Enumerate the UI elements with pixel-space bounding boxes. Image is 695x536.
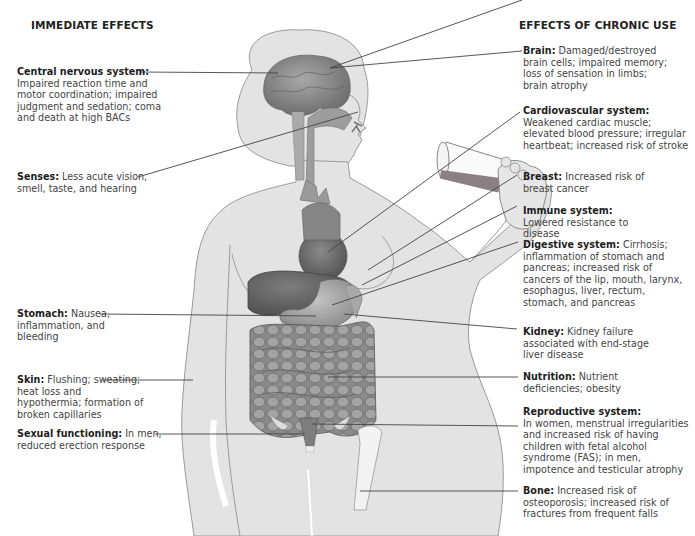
effect-brain: Brain: Damaged/destroyed brain cells; im… <box>523 45 673 91</box>
effect-title: Sexual functioning: <box>17 428 122 439</box>
effect-cardiovascular-system: Cardiovascular system: Weakened cardiac … <box>523 105 693 151</box>
effect-title: Digestive system: <box>523 239 620 250</box>
chronic-effects-heading: EFFECTS OF CHRONIC USE <box>519 19 677 31</box>
effect-title: Senses: <box>17 171 59 182</box>
effect-title: Immune system: <box>523 205 613 216</box>
effect-central-nervous-system: Central nervous system: Impaired reactio… <box>17 66 167 124</box>
effect-text: Lowered resistance to disease <box>523 217 628 240</box>
effect-title: Reproductive system: <box>523 406 641 417</box>
effect-title: Breast: <box>523 171 562 182</box>
effect-senses: Senses: Less acute vision, smell, taste,… <box>17 171 167 194</box>
effect-title: Nutrition: <box>523 371 576 382</box>
effect-immune-system: Immune system: Lowered resistance to dis… <box>523 205 653 240</box>
effect-breast: Breast: Increased risk of breast cancer <box>523 171 653 194</box>
effect-title: Kidney: <box>523 326 564 337</box>
effect-title: Central nervous system: <box>17 66 149 77</box>
effect-title: Bone: <box>523 485 554 496</box>
effect-digestive-system: Digestive system: Cirrhosis; inflammatio… <box>523 239 683 309</box>
effect-text: Weakened cardiac muscle; elevated blood … <box>523 117 688 151</box>
effect-title: Brain: <box>523 45 555 56</box>
effect-sexual-functioning: Sexual functioning: In men, reduced erec… <box>17 428 162 451</box>
effect-title: Cardiovascular system: <box>523 105 649 116</box>
effect-nutrition: Nutrition: Nutrient deficiencies; obesit… <box>523 371 633 394</box>
effect-reproductive-system: Reproductive system: In women, menstrual… <box>523 406 693 476</box>
effect-stomach: Stomach: Nausea, inflammation, and bleed… <box>17 308 117 343</box>
alcohol-effects-diagram: IMMEDIATE EFFECTS EFFECTS OF CHRONIC USE… <box>0 0 695 536</box>
effect-bone: Bone: Increased risk of osteoporosis; in… <box>523 485 673 520</box>
effect-text: In women, menstrual irregularities and i… <box>523 418 689 475</box>
effect-skin: Skin: Flushing; sweating; heat loss and … <box>17 374 145 420</box>
effect-kidney: Kidney: Kidney failure associated with e… <box>523 326 658 361</box>
effect-title: Stomach: <box>17 308 68 319</box>
immediate-effects-heading: IMMEDIATE EFFECTS <box>31 19 154 31</box>
effect-text: Impaired reaction time and motor coordin… <box>17 78 161 124</box>
effect-title: Skin: <box>17 374 44 385</box>
